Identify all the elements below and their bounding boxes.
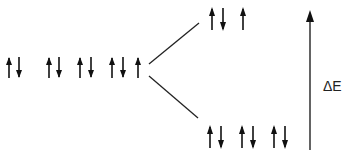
electron-single — [135, 57, 141, 78]
delta-e-text: ΔE — [323, 78, 342, 94]
energy-arrow-icon — [306, 10, 314, 150]
electron-pair-3 — [77, 57, 94, 78]
split-line-upper — [149, 23, 199, 64]
split-line-lower — [149, 76, 198, 118]
delta-e-label: ΔE — [323, 78, 342, 94]
electron-pair-lower-2 — [239, 125, 256, 149]
electron-pair-1 — [6, 57, 22, 78]
lower-electron-group — [207, 125, 288, 149]
electron-pair-lower-3 — [271, 125, 288, 149]
electron-pair-4 — [109, 57, 126, 78]
left-electron-group — [6, 57, 141, 78]
electron-pair-lower-1 — [207, 125, 224, 149]
electron-single-upper — [240, 7, 246, 30]
electron-pair-upper-1 — [209, 7, 226, 31]
electron-pair-2 — [46, 57, 62, 78]
orbital-splitting-diagram — [0, 0, 346, 156]
upper-electron-group — [209, 7, 246, 31]
